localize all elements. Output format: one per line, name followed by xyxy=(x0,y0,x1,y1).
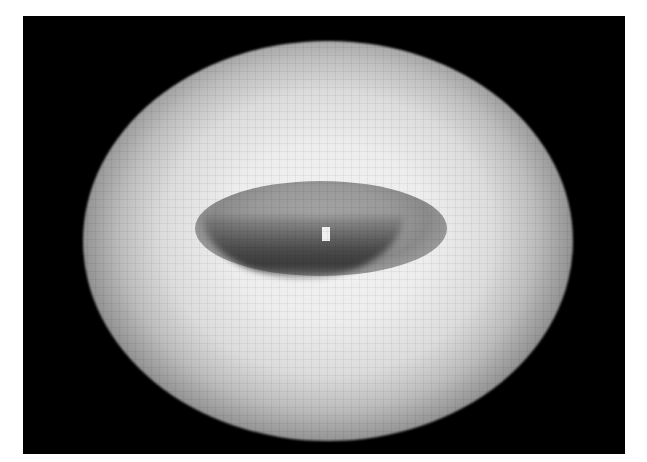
image-frame: Pixelated grayscale image of a bright di… xyxy=(23,16,625,454)
central-bright-spot xyxy=(322,227,330,241)
